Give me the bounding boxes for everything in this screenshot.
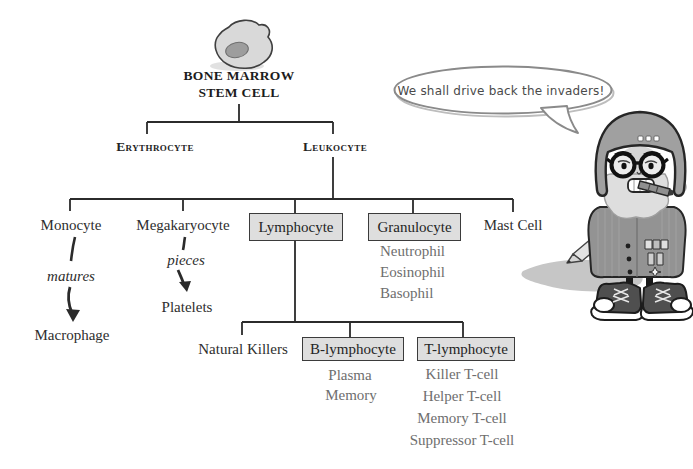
node-mast-cell: Mast Cell — [484, 218, 543, 233]
soldier-mascot — [521, 112, 693, 320]
helmet-dots — [638, 136, 659, 141]
node-granulocyte: Granulocyte — [377, 219, 451, 236]
node-t-lymphocyte: T-lymphocyte — [424, 341, 508, 358]
node-monocyte: Monocyte — [41, 218, 102, 233]
mascot-boots — [591, 283, 693, 320]
root-label-line1: BONE MARROW — [184, 69, 295, 83]
megakaryocyte-arrow-label: pieces — [167, 253, 204, 268]
t-cell-type-suppressor: Suppressor T-cell — [410, 433, 515, 448]
node-natural-killers: Natural Killers — [198, 342, 288, 357]
eye — [648, 163, 653, 169]
speech-bubble-tail — [541, 106, 578, 133]
immune-cell-lineage-diagram: BONE MARROW STEM CELL Erythrocyte Leukoc… — [0, 0, 693, 469]
speech-bubble-text: We shall drive back the invaders! — [397, 84, 604, 98]
b-cell-type-memory: Memory — [325, 388, 377, 403]
node-lymphocyte: Lymphocyte — [259, 219, 334, 236]
t-cell-type-memory: Memory T-cell — [417, 411, 507, 426]
t-cell-type-helper: Helper T-cell — [423, 389, 502, 404]
node-macrophage: Macrophage — [35, 328, 110, 343]
node-lymphocyte-box: Lymphocyte — [249, 213, 343, 241]
arrowhead-platelets — [179, 281, 191, 292]
stem-cell-icon — [210, 20, 272, 71]
monocyte-arrow-label: matures — [47, 269, 95, 284]
arrowhead-macrophage — [66, 309, 80, 322]
t-cell-type-killer: Killer T-cell — [426, 367, 499, 382]
node-t-lymphocyte-box: T-lymphocyte — [417, 337, 515, 361]
b-cell-type-plasma: Plasma — [328, 368, 371, 383]
node-b-lymphocyte-box: B-lymphocyte — [302, 337, 404, 361]
granulocyte-type-neutrophil: Neutrophil — [380, 244, 445, 259]
node-leukocyte: Leukocyte — [303, 140, 367, 154]
node-erythrocyte: Erythrocyte — [116, 140, 194, 154]
root-label-line2: STEM CELL — [198, 86, 279, 100]
node-b-lymphocyte: B-lymphocyte — [310, 341, 396, 358]
eye — [621, 163, 626, 169]
node-megakaryocyte: Megakaryocyte — [136, 218, 229, 233]
granulocyte-type-basophil: Basophil — [380, 286, 433, 301]
node-granulocyte-box: Granulocyte — [368, 213, 461, 241]
granulocyte-type-eosinophil: Eosinophil — [380, 265, 445, 280]
node-platelets: Platelets — [162, 300, 213, 315]
speech-bubble-shape — [395, 67, 614, 134]
